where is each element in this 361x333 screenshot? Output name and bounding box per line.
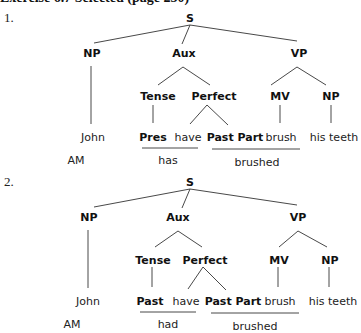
leaf-tense-value: Pres	[139, 132, 167, 143]
node-mv: MV	[269, 255, 288, 266]
tree-number: 2.	[4, 174, 14, 190]
leaf-tense-value: Past	[137, 296, 164, 307]
tree-number: 1.	[4, 10, 14, 26]
leaf-object: his teeth	[309, 296, 357, 307]
leaf-verb: brush	[265, 132, 296, 143]
surface-aux: had	[158, 319, 179, 330]
node-tense: Tense	[140, 91, 175, 102]
node-np: NP	[83, 48, 100, 59]
leaf-subject: John	[76, 296, 100, 307]
surface-verb: brushed	[235, 157, 280, 168]
leaf-past-part: Past Part	[205, 296, 262, 307]
node-s: S	[186, 177, 194, 188]
node-vp: VP	[291, 48, 308, 59]
node-vp: VP	[290, 212, 307, 223]
leaf-subject: John	[81, 132, 105, 143]
node-aux: Aux	[172, 48, 195, 59]
node-s: S	[186, 13, 194, 24]
node-perfect: Perfect	[192, 91, 237, 102]
leaf-object: his teeth	[310, 132, 358, 143]
am-label: AM	[63, 319, 80, 330]
surface-verb: brushed	[233, 321, 278, 332]
node-aux: Aux	[166, 212, 189, 223]
node-perfect: Perfect	[183, 255, 228, 266]
am-label: AM	[67, 155, 84, 166]
surface-aux: has	[158, 155, 177, 166]
node-np: NP	[80, 212, 97, 223]
leaf-have: have	[175, 132, 202, 143]
node-np-object: NP	[322, 91, 339, 102]
node-mv: MV	[270, 91, 289, 102]
leaf-verb: brush	[264, 296, 295, 307]
node-np-object: NP	[321, 255, 338, 266]
leaf-have: have	[173, 296, 200, 307]
node-tense: Tense	[135, 255, 170, 266]
leaf-past-part: Past Part	[207, 132, 264, 143]
